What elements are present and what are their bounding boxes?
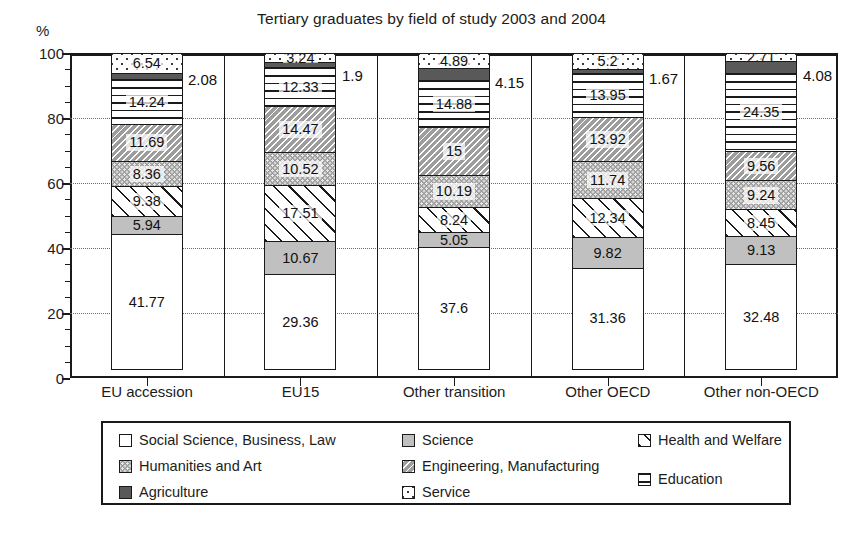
stacked-bar-eu-accession[interactable]: 6.54 2.08 14.24 11.69 8.36 9.38 5.94 41.… (111, 53, 183, 378)
y-axis-labels: 100 80 60 40 20 0 (8, 53, 64, 378)
legend-label-social-science: Social Science, Business, Law (139, 432, 336, 448)
y-label-0: 0 (56, 370, 64, 387)
y-label-100: 100 (39, 45, 64, 62)
segment-service[interactable]: 5.2 (572, 53, 644, 70)
segment-education[interactable]: 12.33 (264, 67, 336, 107)
legend-item-humanities[interactable]: Humanities and Art (119, 458, 262, 474)
legend-item-social-science[interactable]: Social Science, Business, Law (119, 432, 336, 448)
segment-service[interactable]: 4.89 (418, 53, 490, 69)
segment-education[interactable]: 14.88 (418, 80, 490, 128)
segment-social-science[interactable]: 32.48 (725, 264, 797, 370)
ytick-minor-25 (65, 297, 70, 298)
segment-social-science[interactable]: 29.36 (264, 274, 336, 369)
stacked-bar-other-non-oecd[interactable]: 2.71 4.08 24.35 9.56 9.24 8.45 9.13 32.4… (725, 53, 797, 378)
group-separator-3 (531, 53, 532, 378)
x-axis-labels: EU accession EU15 Other transition Other… (70, 383, 838, 407)
stacked-bar-other-oecd[interactable]: 5.2 1.67 13.95 13.92 11.74 12.34 9.82 31… (572, 53, 644, 378)
segment-humanities[interactable]: 11.74 (572, 161, 644, 199)
plot-area: 100 80 60 40 20 0 6.54 2.08 14.24 11.69 … (70, 53, 838, 378)
segment-humanities[interactable]: 9.24 (725, 180, 797, 210)
legend-swatch-science-icon (402, 434, 415, 447)
y-label-40: 40 (47, 240, 64, 257)
legend-swatch-humanities-icon (119, 460, 132, 473)
legend-label-service: Service (422, 484, 470, 500)
y-label-20: 20 (47, 305, 64, 322)
segment-education[interactable]: 13.95 (572, 73, 644, 118)
legend-label-humanities: Humanities and Art (139, 458, 262, 474)
x-label-other-transition: Other transition (377, 383, 531, 400)
legend-item-science[interactable]: Science (402, 432, 474, 448)
legend-item-health[interactable]: Health and Welfare (638, 432, 782, 448)
x-label-other-oecd: Other OECD (531, 383, 685, 400)
stacked-bar-other-transition[interactable]: 4.89 4.15 14.88 15 10.19 8.24 5.05 37.6 (418, 53, 490, 378)
segment-health[interactable]: 9.38 (111, 186, 183, 216)
segment-humanities[interactable]: 8.36 (111, 161, 183, 188)
segment-service[interactable]: 6.54 (111, 53, 183, 74)
stacked-bar-eu15[interactable]: 3.24 1.9 12.33 14.47 10.52 17.51 10.67 2… (264, 53, 336, 378)
segment-engineering[interactable]: 13.92 (572, 117, 644, 162)
segment-engineering[interactable]: 9.56 (725, 151, 797, 182)
ytick-minor-15 (65, 329, 70, 330)
ytick-minor-55 (65, 199, 70, 200)
legend-item-service[interactable]: Service (402, 484, 470, 500)
segment-humanities[interactable]: 10.52 (264, 152, 336, 186)
segment-science[interactable]: 10.67 (264, 241, 336, 276)
segment-science[interactable]: 9.82 (572, 237, 644, 269)
legend-swatch-service-icon (402, 486, 415, 499)
segment-engineering[interactable]: 14.47 (264, 106, 336, 153)
segment-health[interactable]: 8.45 (725, 209, 797, 236)
segment-social-science[interactable]: 41.77 (111, 234, 183, 370)
segment-education[interactable]: 14.24 (111, 79, 183, 125)
segment-social-science[interactable]: 37.6 (418, 247, 490, 369)
segment-education[interactable]: 24.35 (725, 73, 797, 152)
legend-label-health: Health and Welfare (658, 432, 782, 448)
legend-label-agriculture: Agriculture (139, 484, 208, 500)
group-separator-1 (224, 53, 225, 378)
segment-science[interactable]: 9.13 (725, 236, 797, 266)
segment-humanities[interactable]: 10.19 (418, 175, 490, 208)
ytick-minor-95 (65, 69, 70, 70)
legend-swatch-education-icon (638, 473, 651, 486)
segment-science[interactable]: 5.05 (418, 232, 490, 248)
y-label-60: 60 (47, 175, 64, 192)
ytick-minor-35 (65, 264, 70, 265)
segment-engineering[interactable]: 11.69 (111, 124, 183, 162)
ytick-minor-85 (65, 102, 70, 103)
ytick-minor-45 (65, 232, 70, 233)
chart-title: Tertiary graduates by field of study 200… (0, 10, 863, 28)
outside-label-agriculture-other-non-oecd: 4.08 (803, 67, 832, 84)
y-label-80: 80 (47, 110, 64, 127)
legend-item-agriculture[interactable]: Agriculture (119, 484, 208, 500)
x-label-other-non-oecd: Other non-OECD (684, 383, 838, 400)
legend-grid: Social Science, Business, Law Humanities… (103, 423, 789, 503)
group-separator-2 (377, 53, 378, 378)
outside-label-agriculture-other-oecd: 1.67 (649, 70, 678, 87)
outside-label-agriculture-eu15: 1.9 (342, 67, 363, 84)
y-axis-unit-label: % (36, 22, 49, 39)
ytick-minor-10 (65, 346, 70, 347)
ytick-minor-75 (65, 134, 70, 135)
legend-item-engineering[interactable]: Engineering, Manufacturing (402, 458, 599, 474)
legend-swatch-social-science-icon (119, 434, 132, 447)
ytick-minor-30 (65, 281, 70, 282)
segment-health[interactable]: 17.51 (264, 185, 336, 242)
chart-legend: Social Science, Business, Law Humanities… (101, 421, 791, 505)
legend-swatch-engineering-icon (402, 460, 415, 473)
ytick-minor-70 (65, 151, 70, 152)
outside-label-agriculture-other-transition: 4.15 (495, 74, 524, 91)
ytick-minor-5 (65, 362, 70, 363)
ytick-minor-50 (65, 216, 70, 217)
segment-health[interactable]: 8.24 (418, 207, 490, 234)
legend-swatch-health-icon (638, 434, 651, 447)
outside-label-agriculture-eu-accession: 2.08 (188, 71, 217, 88)
legend-label-science: Science (422, 432, 474, 448)
legend-item-education[interactable]: Education (638, 471, 723, 487)
segment-engineering[interactable]: 15 (418, 127, 490, 176)
segment-science[interactable]: 5.94 (111, 216, 183, 235)
segment-social-science[interactable]: 31.36 (572, 268, 644, 370)
segment-health[interactable]: 12.34 (572, 198, 644, 238)
ytick-minor-90 (65, 86, 70, 87)
x-label-eu15: EU15 (224, 383, 378, 400)
legend-swatch-agriculture-icon (119, 486, 132, 499)
group-separator-4 (684, 53, 685, 378)
